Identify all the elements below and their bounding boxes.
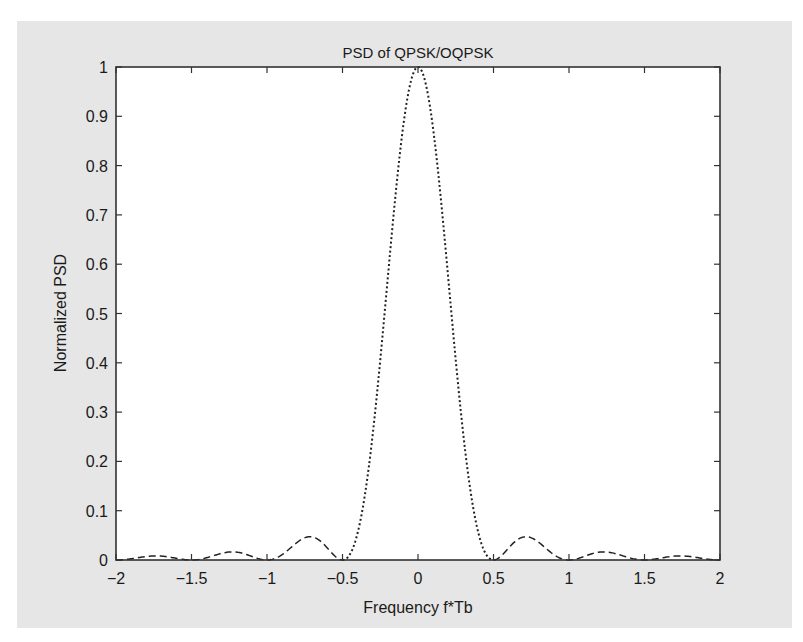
x-tick-label: 0.5 [482, 570, 504, 587]
x-tick-label: 0 [414, 570, 423, 587]
x-tick-label: 1.5 [633, 570, 655, 587]
y-tick-label: 1 [99, 59, 108, 76]
psd-chart: −2−1.5−1−0.500.511.52 00.10.20.30.40.50.… [0, 0, 803, 642]
x-tick-label: 2 [716, 570, 725, 587]
x-tick-label: −1 [258, 570, 276, 587]
y-tick-label: 0.3 [86, 404, 108, 421]
x-axis-label: Frequency f*Tb [363, 599, 472, 616]
y-tick-label: 0 [99, 552, 108, 569]
y-tick-label: 0.1 [86, 503, 108, 520]
y-tick-label: 0.8 [86, 158, 108, 175]
y-axis-label: Normalized PSD [52, 254, 69, 372]
x-tick-label: 1 [565, 570, 574, 587]
y-tick-label: 0.5 [86, 306, 108, 323]
y-tick-label: 0.4 [86, 355, 108, 372]
plot-area [116, 67, 720, 560]
y-tick-label: 0.7 [86, 207, 108, 224]
chart-title: PSD of QPSK/OQPSK [343, 44, 494, 61]
x-tick-label: −1.5 [176, 570, 208, 587]
x-tick-label: −2 [107, 570, 125, 587]
y-tick-label: 0.9 [86, 108, 108, 125]
y-tick-label: 0.2 [86, 453, 108, 470]
x-tick-label: −0.5 [327, 570, 359, 587]
y-tick-label: 0.6 [86, 256, 108, 273]
